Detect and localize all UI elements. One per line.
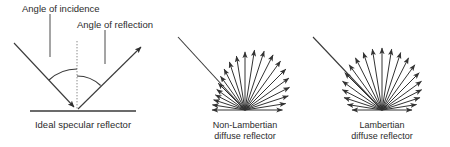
reflection-ray [382,81,421,110]
diagram-canvas: Angle of incidence Angle of reflection I… [0,0,450,147]
reflection-ray [349,65,382,110]
caption-ideal-specular: Ideal specular reflector [35,119,131,130]
reflection-ray [217,89,245,110]
reflection-ray [245,61,280,110]
caption-non-lambertian-line1: Non-Lambertian [213,120,278,130]
label-angle-of-reflection: Angle of reflection [77,19,153,30]
reflection-lobe-lambertian [342,48,421,110]
caption-lambertian-line2: diffuse reflector [351,131,412,141]
incident-ray-non-lambertian [178,37,245,110]
reflection-arc [77,76,101,86]
reflection-ray [221,76,246,110]
panel-ideal-specular: Angle of incidence Angle of reflection I… [14,3,153,130]
caption-non-lambertian-line2: diffuse reflector [214,131,275,141]
reflection-ray [343,81,382,110]
reflection-diagram: Angle of incidence Angle of reflection I… [0,0,450,147]
incidence-arc [49,69,77,80]
label-angle-of-incidence: Angle of incidence [22,3,100,14]
panel-lambertian: Lambertian diffuse reflector [313,37,422,141]
caption-lambertian-line1: Lambertian [359,120,404,130]
panel-non-lambertian: Non-Lambertian diffuse reflector [178,37,290,141]
reflection-lobe-non-lambertian [212,50,290,110]
incident-ray [14,43,74,107]
reflection-ray [382,65,415,110]
reflection-ray [245,78,289,110]
